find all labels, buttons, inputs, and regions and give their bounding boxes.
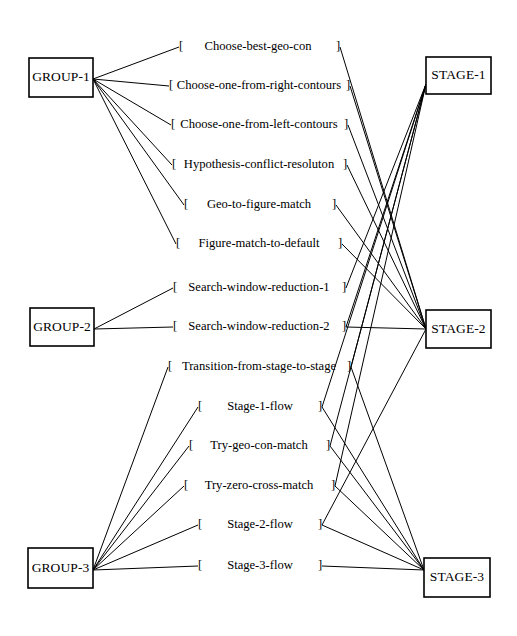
group-label-group-3: GROUP-3 xyxy=(32,560,90,575)
edge-t14-to-stage-3 xyxy=(322,566,424,570)
task-close-bracket-t3: ] xyxy=(344,117,348,131)
task-open-bracket-t5: [ xyxy=(184,197,188,211)
task-name-t12: Try-zero-cross-match xyxy=(205,478,314,492)
task-open-bracket-t9: [ xyxy=(168,359,172,373)
task-open-bracket-t14: [ xyxy=(198,558,202,572)
task-name-t2: Choose-one-from-right-contours xyxy=(177,78,341,92)
edge-group-3-to-t11 xyxy=(93,446,189,570)
edge-group-3-to-t9 xyxy=(93,367,168,570)
edge-t4-to-stage-2 xyxy=(347,165,426,329)
task-close-bracket-t12: ] xyxy=(331,478,335,492)
group-label-group-2: GROUP-2 xyxy=(33,319,91,334)
edge-t3-to-stage-2 xyxy=(348,125,426,329)
task-name-t7: Search-window-reduction-1 xyxy=(188,280,329,294)
edge-group-1-to-t5 xyxy=(93,79,184,205)
task-open-bracket-t10: [ xyxy=(198,399,202,413)
task-close-bracket-t14: ] xyxy=(318,558,322,572)
task-close-bracket-t13: ] xyxy=(318,517,322,531)
task-open-bracket-t12: [ xyxy=(184,478,188,492)
stage-label-stage-3: STAGE-3 xyxy=(430,569,485,584)
task-open-bracket-t11: [ xyxy=(189,438,193,452)
task-open-bracket-t7: [ xyxy=(173,280,177,294)
task-close-bracket-t10: ] xyxy=(318,399,322,413)
edge-t8-to-stage-2 xyxy=(346,327,426,329)
task-name-t14: Stage-3-flow xyxy=(227,558,294,572)
task-open-bracket-t3: [ xyxy=(171,117,175,131)
edge-group-3-to-t14 xyxy=(93,566,198,570)
task-close-bracket-t2: ] xyxy=(346,78,350,92)
task-close-bracket-t6: ] xyxy=(338,236,342,250)
task-close-bracket-t4: ] xyxy=(343,157,347,171)
task-name-t1: Choose-best-geo-con xyxy=(204,39,312,53)
task-close-bracket-t8: ] xyxy=(342,319,346,333)
task-name-t6: Figure-match-to-default xyxy=(199,236,320,250)
edge-group-3-to-t10 xyxy=(93,407,198,570)
task-close-bracket-t7: ] xyxy=(342,280,346,294)
edge-group-1-to-t2 xyxy=(93,79,169,86)
group-label-group-1: GROUP-1 xyxy=(32,69,90,84)
task-name-t4: Hypothesis-conflict-resoluton xyxy=(184,157,335,171)
task-open-bracket-t6: [ xyxy=(176,236,180,250)
stage-label-stage-1: STAGE-1 xyxy=(431,67,485,82)
edge-t7-to-stage-1 xyxy=(346,84,426,288)
edge-group-2-to-t7 xyxy=(94,288,173,329)
edge-group-3-to-t13 xyxy=(93,525,198,570)
task-name-t13: Stage-2-flow xyxy=(227,517,294,531)
edge-t2-to-stage-2 xyxy=(350,86,426,329)
diagram-canvas: GROUP-1GROUP-2GROUP-3STAGE-1STAGE-2STAGE… xyxy=(0,0,517,636)
task-name-t9: Transition-from-stage-to-stage xyxy=(182,359,337,373)
edge-t11-to-stage-1 xyxy=(330,84,426,446)
edge-t13-to-stage-3 xyxy=(322,525,424,570)
task-open-bracket-t13: [ xyxy=(198,517,202,531)
task-name-t11: Try-geo-con-match xyxy=(210,438,308,452)
edge-t11-to-stage-3 xyxy=(330,446,424,570)
task-close-bracket-t9: ] xyxy=(347,359,351,373)
edge-t9-to-stage-3 xyxy=(351,367,424,570)
task-name-t10: Stage-1-flow xyxy=(227,399,294,413)
task-labels: [Choose-best-geo-con][Choose-one-from-ri… xyxy=(168,39,351,572)
task-close-bracket-t1: ] xyxy=(336,39,340,53)
task-open-bracket-t1: [ xyxy=(179,39,183,53)
edge-group-1-to-t1 xyxy=(93,47,179,79)
task-open-bracket-t2: [ xyxy=(169,78,173,92)
task-open-bracket-t4: [ xyxy=(172,157,176,171)
task-name-t8: Search-window-reduction-2 xyxy=(188,319,329,333)
edge-group-2-to-t8 xyxy=(94,327,173,329)
task-name-t3: Choose-one-from-left-contours xyxy=(180,117,337,131)
task-open-bracket-t8: [ xyxy=(173,319,177,333)
link-diagram-svg: GROUP-1GROUP-2GROUP-3STAGE-1STAGE-2STAGE… xyxy=(0,0,517,636)
edge-group-1-to-t4 xyxy=(93,79,172,165)
task-close-bracket-t5: ] xyxy=(332,197,336,211)
task-close-bracket-t11: ] xyxy=(326,438,330,452)
stage-label-stage-2: STAGE-2 xyxy=(431,321,485,336)
task-name-t5: Geo-to-figure-match xyxy=(207,197,312,211)
